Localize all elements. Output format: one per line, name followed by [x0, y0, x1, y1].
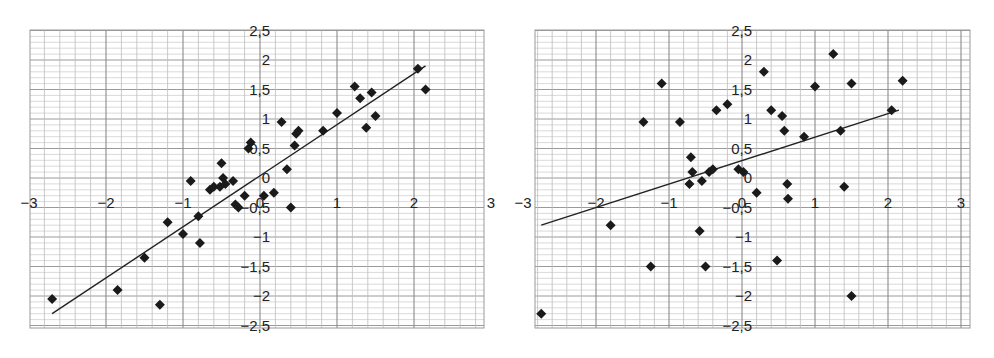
x-tick-label: −1 — [660, 194, 677, 211]
data-point — [318, 126, 328, 136]
data-point — [350, 82, 360, 92]
data-point — [606, 220, 616, 230]
y-tick-label: −1,5 — [240, 258, 270, 275]
data-point — [752, 188, 762, 198]
x-tick-label: 3 — [957, 194, 965, 211]
scatter-chart-right: −3−2−101232,521,510,50−0,5−1−1,5−2−2,5 — [497, 0, 994, 358]
y-tick-label: −1 — [735, 228, 752, 245]
x-tick-label: −3 — [20, 194, 37, 211]
data-point — [332, 108, 342, 118]
y-tick-label: 2,5 — [249, 22, 270, 39]
y-tick-label: −2 — [735, 287, 752, 304]
data-point — [684, 179, 694, 189]
data-point — [657, 79, 667, 89]
data-point — [772, 256, 782, 266]
x-tick-label: 3 — [487, 194, 495, 211]
data-point — [722, 99, 732, 109]
data-point — [47, 294, 57, 304]
y-tick-label: −1 — [253, 228, 270, 245]
y-tick-label: −0,5 — [722, 199, 752, 216]
x-tick-label: 2 — [884, 194, 892, 211]
data-point — [766, 105, 776, 115]
y-tick-label: 2,5 — [731, 22, 752, 39]
data-point — [355, 93, 365, 103]
data-point — [782, 179, 792, 189]
data-point — [759, 67, 769, 77]
data-point — [163, 217, 173, 227]
x-tick-label: 2 — [410, 194, 418, 211]
data-point — [286, 203, 296, 213]
scatter-chart-left: −3−2−101232,521,510,50−0,5−1−1,5−2−2,5 — [0, 0, 497, 358]
data-point — [701, 262, 711, 272]
x-tick-label: 1 — [333, 194, 341, 211]
y-tick-label: −2 — [253, 287, 270, 304]
data-point — [810, 82, 820, 92]
x-tick-label: −1 — [174, 194, 191, 211]
data-point — [277, 117, 287, 127]
scatter-plot-left: −3−2−101232,521,510,50−0,5−1−1,5−2−2,5 — [0, 0, 497, 358]
data-point — [783, 194, 793, 204]
y-tick-label: −0,5 — [240, 199, 270, 216]
data-point — [371, 111, 381, 121]
y-tick-label: 0,5 — [731, 140, 752, 157]
data-point — [898, 76, 908, 86]
data-point — [695, 226, 705, 236]
y-tick-label: 1 — [744, 110, 752, 127]
data-point — [269, 188, 279, 198]
y-tick-label: 1,5 — [731, 81, 752, 98]
data-point — [847, 79, 857, 89]
data-point — [839, 182, 849, 192]
data-point — [186, 176, 196, 186]
data-point — [193, 211, 203, 221]
x-tick-label: 1 — [811, 194, 819, 211]
data-point — [847, 291, 857, 301]
data-point — [361, 123, 371, 133]
x-tick-label: −3 — [514, 194, 531, 211]
data-point — [195, 238, 205, 248]
y-tick-label: −2,5 — [240, 317, 270, 334]
y-tick-label: 2 — [262, 51, 270, 68]
y-tick-label: −1,5 — [722, 258, 752, 275]
y-tick-label: 1 — [262, 110, 270, 127]
y-tick-label: 2 — [744, 51, 752, 68]
data-point — [686, 152, 696, 162]
data-point — [155, 300, 165, 310]
x-tick-label: −2 — [587, 194, 604, 211]
scatter-plot-right: −3−2−101232,521,510,50−0,5−1−1,5−2−2,5 — [497, 0, 994, 358]
grid — [535, 30, 970, 328]
y-tick-label: −2,5 — [722, 317, 752, 334]
data-point — [217, 158, 227, 168]
data-point — [178, 229, 188, 239]
y-tick-label: 1,5 — [249, 81, 270, 98]
x-tick-label: −2 — [97, 194, 114, 211]
data-point — [779, 126, 789, 136]
